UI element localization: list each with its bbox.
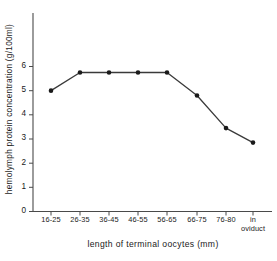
chart-figure: hemolymph protein concentration (g/100ml… [0, 0, 277, 261]
data-point [195, 93, 200, 98]
y-axis-ticks [29, 67, 33, 212]
data-point [165, 70, 170, 75]
data-point [224, 126, 229, 131]
data-series-line [51, 73, 253, 143]
data-point [107, 70, 112, 75]
data-point [49, 88, 54, 93]
data-point [251, 140, 256, 145]
data-point [136, 70, 141, 75]
x-axis-ticks [51, 212, 253, 216]
data-series-markers [49, 70, 256, 145]
plot-area [0, 0, 277, 261]
data-point [78, 70, 83, 75]
